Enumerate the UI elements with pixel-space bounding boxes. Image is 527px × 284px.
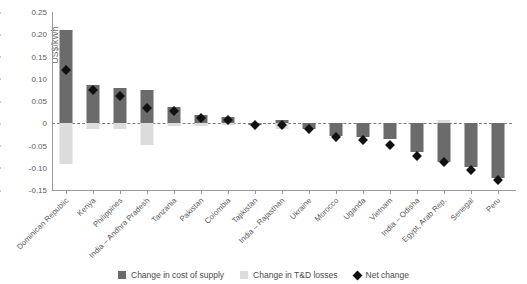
bar-group[interactable]: [52, 12, 79, 190]
net-change-marker[interactable]: [412, 151, 422, 161]
square-swatch-icon: [118, 271, 126, 279]
y-tick-mark: [0, 34, 1, 35]
bar-group[interactable]: [106, 12, 133, 190]
bar-group[interactable]: [350, 12, 377, 190]
x-tick-mark: [390, 190, 391, 194]
y-tick-mark: [0, 12, 1, 13]
bar-tnd-losses[interactable]: [59, 123, 72, 163]
bar-group[interactable]: [458, 12, 485, 190]
bar-group[interactable]: [187, 12, 214, 190]
bar-group[interactable]: [214, 12, 241, 190]
x-tick-mark: [417, 190, 418, 194]
bar-group[interactable]: [404, 12, 431, 190]
x-tick-mark: [309, 190, 310, 194]
y-tick-label: -0.10: [1, 163, 47, 172]
y-tick-label: 0.10: [1, 74, 47, 83]
x-tick-mark: [336, 190, 337, 194]
legend-label: Net change: [366, 270, 409, 280]
bar-cost-of-supply[interactable]: [411, 123, 424, 152]
y-tick-label: 0.15: [1, 52, 47, 61]
bar-cost-of-supply[interactable]: [492, 123, 505, 177]
y-tick-label: 0.20: [1, 30, 47, 39]
bar-tnd-losses[interactable]: [86, 123, 99, 128]
square-swatch-icon: [240, 271, 248, 279]
bar-group[interactable]: [268, 12, 295, 190]
legend-label: Change in cost of supply: [131, 270, 224, 280]
y-tick-mark: [0, 57, 1, 58]
x-tick-mark: [201, 190, 202, 194]
bar-group[interactable]: [241, 12, 268, 190]
chart-root: US$/kWh 0.250.200.150.100.050-0.05-0.10-…: [0, 0, 527, 284]
y-tick-label: 0.05: [1, 97, 47, 106]
y-tick-mark: [0, 168, 1, 169]
x-tick-mark: [174, 190, 175, 194]
x-tick-mark: [444, 190, 445, 194]
x-axis-line: [52, 190, 516, 191]
bar-group[interactable]: [296, 12, 323, 190]
y-tick-label: -0.05: [1, 141, 47, 150]
chart-legend: Change in cost of supplyChange in T&D lo…: [0, 270, 527, 280]
bar-group[interactable]: [431, 12, 458, 190]
y-tick-label: -0.15: [1, 186, 47, 195]
y-tick-label: 0: [1, 119, 47, 128]
x-tick-mark: [471, 190, 472, 194]
bar-group[interactable]: [160, 12, 187, 190]
bar-cost-of-supply[interactable]: [465, 123, 478, 167]
bar-tnd-losses[interactable]: [167, 123, 180, 126]
plot-area: US$/kWh 0.250.200.150.100.050-0.05-0.10-…: [52, 12, 512, 190]
bar-tnd-losses[interactable]: [113, 123, 126, 129]
bar-group[interactable]: [485, 12, 512, 190]
bar-cost-of-supply[interactable]: [384, 123, 397, 139]
bar-group[interactable]: [377, 12, 404, 190]
x-tick-mark: [66, 190, 67, 194]
y-tick-mark: [0, 123, 1, 124]
diamond-icon: [352, 270, 362, 280]
bar-tnd-losses[interactable]: [140, 123, 153, 145]
y-tick-mark: [0, 101, 1, 102]
y-tick-mark: [0, 190, 1, 191]
net-change-marker[interactable]: [250, 120, 260, 130]
net-change-marker[interactable]: [385, 140, 395, 150]
y-tick-mark: [0, 79, 1, 80]
bar-group[interactable]: [323, 12, 350, 190]
legend-label: Change in T&D losses: [253, 270, 337, 280]
y-tick-label: 0.25: [1, 8, 47, 17]
y-tick-mark: [0, 146, 1, 147]
x-tick-mark: [147, 190, 148, 194]
bar-group[interactable]: [133, 12, 160, 190]
x-tick-mark: [93, 190, 94, 194]
legend-item[interactable]: Change in T&D losses: [240, 270, 337, 280]
legend-item[interactable]: Net change: [354, 270, 409, 280]
bar-series-container: [52, 12, 512, 190]
x-tick-mark: [255, 190, 256, 194]
legend-item[interactable]: Change in cost of supply: [118, 270, 224, 280]
bar-group[interactable]: [79, 12, 106, 190]
x-tick-mark: [282, 190, 283, 194]
x-tick-mark: [498, 190, 499, 194]
bar-cost-of-supply[interactable]: [59, 30, 72, 123]
x-tick-mark: [228, 190, 229, 194]
bar-tnd-losses[interactable]: [194, 123, 207, 126]
x-tick-mark: [363, 190, 364, 194]
x-tick-mark: [120, 190, 121, 194]
